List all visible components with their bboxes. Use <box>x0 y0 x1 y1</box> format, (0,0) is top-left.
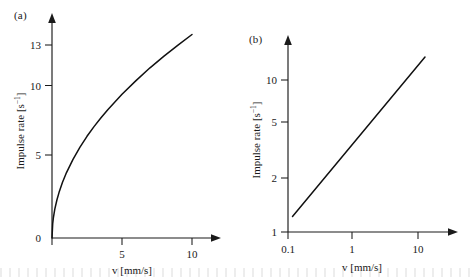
panel-a-xtick-label-5: 5 <box>119 248 125 260</box>
panel-b-xtick-label-0.1: 0.1 <box>281 243 295 255</box>
panel-a-y-axis-arrowhead <box>48 13 56 23</box>
scan-artifact-strip <box>0 268 471 277</box>
panel-a-curve <box>52 35 192 239</box>
svg-text:Impulse rate [s−1]: Impulse rate [s−1] <box>13 92 26 169</box>
panel-b-yaxis-title-close: ] <box>250 101 262 105</box>
panel-b-yaxis-title-exponent: −1 <box>249 105 258 113</box>
panel-a-yaxis-title-close: ] <box>14 92 26 96</box>
panel-b-x-axis-arrowhead <box>448 228 458 236</box>
panel-a-ytick-label-5: 5 <box>36 149 42 161</box>
panel-b-ytick-label-2: 2 <box>272 172 278 184</box>
panel-b-plot: 1 2 5 10 0.1 1 10 v [mm/s] Impulse rate … <box>236 0 471 277</box>
panel-a-origin-label: 0 <box>36 232 42 244</box>
panel-b-label: (b) <box>249 33 262 45</box>
panel-a-ytick-label-13: 13 <box>30 39 42 51</box>
panel-b: (b) 1 2 5 10 0.1 1 10 v [mm/s <box>236 0 471 277</box>
panel-a-plot: 5 10 13 0 5 10 v [mm/s] Impulse rate [s−… <box>0 0 236 277</box>
panel-a-yaxis-title-exponent: −1 <box>13 96 22 104</box>
panel-b-ytick-label-1: 1 <box>272 226 278 238</box>
panel-b-line <box>293 57 426 217</box>
panel-b-yaxis-title: Impulse rate [s−1] <box>249 101 262 178</box>
panel-a-yaxis-title: Impulse rate [s−1] <box>13 92 26 169</box>
panel-b-ytick-label-5: 5 <box>272 116 278 128</box>
panel-a-yaxis-title-base: Impulse rate [s <box>14 104 26 169</box>
panel-b-y-axis-arrowhead <box>284 35 292 45</box>
panel-b-yaxis-title-base: Impulse rate [s <box>250 113 262 178</box>
panel-b-xtick-label-1: 1 <box>349 243 355 255</box>
panel-a-label: (a) <box>14 9 27 21</box>
panel-a-ytick-label-10: 10 <box>30 80 42 92</box>
figure-container: (a) 5 10 13 0 5 10 v [mm/s] <box>0 0 471 277</box>
panel-a-x-axis-arrowhead <box>211 234 221 242</box>
panel-a: (a) 5 10 13 0 5 10 v [mm/s] <box>0 0 236 277</box>
panel-a-xtick-label-10: 10 <box>187 248 199 260</box>
panel-b-ytick-label-10: 10 <box>266 74 278 86</box>
panel-b-xtick-label-10: 10 <box>413 243 425 255</box>
svg-text:Impulse rate [s−1]: Impulse rate [s−1] <box>249 101 262 178</box>
